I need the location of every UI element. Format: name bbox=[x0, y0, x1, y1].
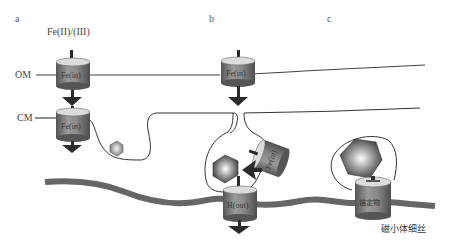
panel-label-b: b bbox=[209, 13, 214, 24]
down-arrow-icon bbox=[228, 97, 248, 106]
transporter-om-b: Fe(in) bbox=[221, 50, 255, 106]
transporter-om-a: Fe(in) bbox=[56, 50, 90, 106]
transporter-cm-a-label: Fe(in) bbox=[61, 122, 81, 131]
filament-label: 磁小体细丝 bbox=[381, 223, 426, 234]
iron-source-label: Fe(II)/(III) bbox=[47, 26, 90, 38]
down-arrow-icon bbox=[228, 226, 250, 234]
transporter-om-b-label: Fe(in) bbox=[226, 69, 246, 78]
panel-label-a: a bbox=[15, 13, 20, 24]
magnetite-crystal-c-icon bbox=[340, 139, 382, 178]
cytoplasmic-membrane-right bbox=[244, 108, 420, 113]
small-magnetite-crystal-icon bbox=[110, 141, 123, 156]
transporter-out-b-label: H(out) bbox=[227, 201, 249, 210]
panel-label-c: c bbox=[327, 13, 332, 24]
magnetite-crystal-b-icon bbox=[213, 155, 238, 183]
transporter-cm-a: Fe(in) bbox=[56, 106, 90, 153]
cm-label: CM bbox=[17, 112, 33, 123]
down-arrow-icon bbox=[62, 145, 82, 153]
magnetosome-diagram: a b c Fe(II)/(III) OM CM Fe(in) Fe(in) bbox=[0, 0, 451, 242]
down-arrow-icon bbox=[62, 97, 82, 106]
anchor-protein: 锚定物 bbox=[355, 176, 391, 220]
transporter-out-b: H(out) bbox=[223, 176, 257, 234]
anchor-label: 锚定物 bbox=[359, 198, 380, 207]
transporter-om-a-label: Fe(in) bbox=[61, 71, 81, 80]
om-label: OM bbox=[15, 69, 31, 80]
